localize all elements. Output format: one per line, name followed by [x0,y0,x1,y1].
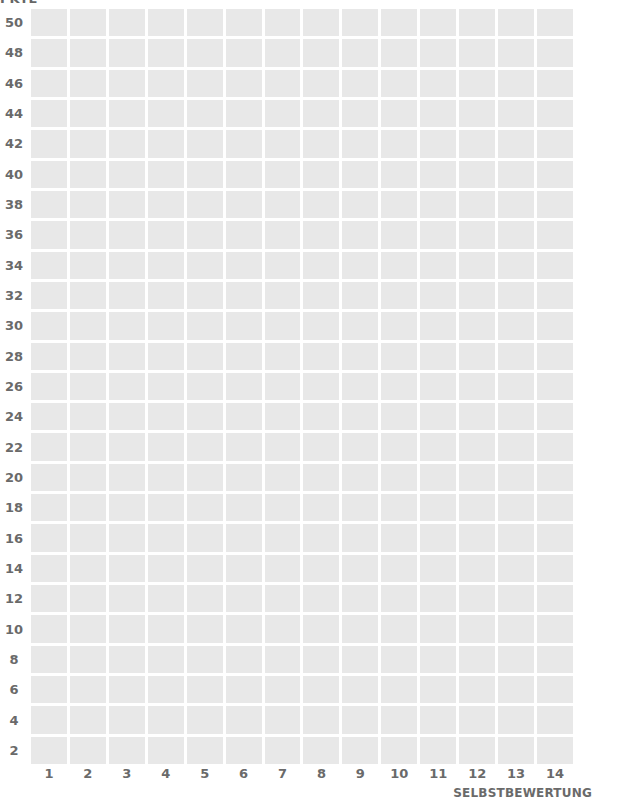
grid-cell [70,100,106,127]
grid-cell [303,100,339,127]
grid-cell [342,676,378,703]
grid-cell [420,403,456,430]
y-tick-label: 8 [0,646,28,673]
grid-cell [109,70,145,97]
grid-cell [265,161,301,188]
grid-cell [226,585,262,612]
grid-cell [381,70,417,97]
grid-cell [303,373,339,400]
x-axis-labels: 1234567891011121314 [31,766,573,781]
grid-cell [226,252,262,279]
grid-cell [187,433,223,460]
grid-cell [342,191,378,218]
grid-cell [420,191,456,218]
grid-cell [459,433,495,460]
y-tick-label: 10 [0,615,28,642]
grid-cell [148,403,184,430]
grid-cell [303,252,339,279]
grid-cell [148,494,184,521]
grid-cell [303,343,339,370]
x-tick-label: 10 [381,766,417,781]
grid-cell [265,464,301,491]
grid-cell [31,161,67,188]
x-tick-label: 11 [420,766,456,781]
grid-cell [148,191,184,218]
grid-cell [265,524,301,551]
grid-cell [70,676,106,703]
grid-cell [226,161,262,188]
grid-cell [459,39,495,66]
grid-cell [459,494,495,521]
grid-cell [265,252,301,279]
grid-cell [459,464,495,491]
grid-cell [498,737,534,764]
grid-cell [109,524,145,551]
grid-cell [342,585,378,612]
grid-cell [498,221,534,248]
grid-cell [420,585,456,612]
x-tick-label: 5 [187,766,223,781]
grid-cell [148,706,184,733]
y-tick-label: 6 [0,676,28,703]
grid-cell [342,130,378,157]
grid-cell [498,100,534,127]
y-tick-label: 40 [0,161,28,188]
grid-cell [148,737,184,764]
grid-cell [148,312,184,339]
grid-cell [303,130,339,157]
grid-cell [498,9,534,36]
grid-cell [148,615,184,642]
grid-cell [381,100,417,127]
grid-cell [420,373,456,400]
grid-cell [381,312,417,339]
grid-cell [381,343,417,370]
grid-cell [70,9,106,36]
grid-cell [70,403,106,430]
grid-cell [265,615,301,642]
grid-cell [459,706,495,733]
grid-cell [537,252,573,279]
grid-cell [420,433,456,460]
grid-cell [381,433,417,460]
grid-cell [148,252,184,279]
grid-cell [31,524,67,551]
grid-cell [70,70,106,97]
grid-cell [148,39,184,66]
grid-cell [342,252,378,279]
grid-cell [537,39,573,66]
grid-cell [226,676,262,703]
x-tick-label: 14 [537,766,573,781]
grid-cell [70,555,106,582]
grid-cell [459,676,495,703]
grid-cell [498,343,534,370]
grid-cell [226,39,262,66]
grid-cell [459,100,495,127]
grid-cell [265,373,301,400]
grid-cell [303,524,339,551]
x-tick-label: 8 [303,766,339,781]
y-tick-label: 46 [0,70,28,97]
grid-cell [70,615,106,642]
grid-cell [148,100,184,127]
y-tick-label: 4 [0,706,28,733]
grid-cell [187,312,223,339]
grid-cell [342,161,378,188]
grid-cell [148,555,184,582]
chart-grid [31,9,573,764]
x-tick-label: 9 [342,766,378,781]
y-tick-label: 16 [0,524,28,551]
grid-cell [303,161,339,188]
grid-cell [459,343,495,370]
y-axis-labels: 5048464442403836343230282624222018161412… [0,9,28,764]
grid-cell [31,343,67,370]
grid-cell [226,524,262,551]
grid-cell [187,161,223,188]
grid-cell [420,646,456,673]
y-tick-label: 18 [0,494,28,521]
grid-cell [265,646,301,673]
grid-cell [31,555,67,582]
grid-cell [265,433,301,460]
grid-cell [109,464,145,491]
grid-cell [148,676,184,703]
grid-cell [498,282,534,309]
